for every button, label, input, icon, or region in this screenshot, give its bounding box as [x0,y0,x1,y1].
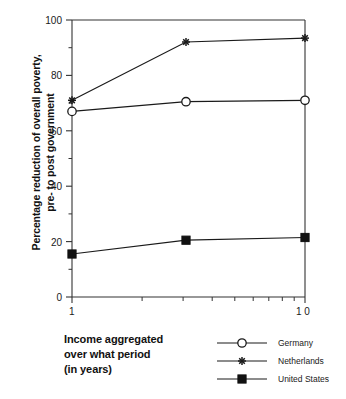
y-tick-label-100: 100 [45,15,62,26]
legend-key-united-states [216,372,268,386]
star-marker [216,354,268,368]
x-axis-title-line-1: Income aggregated [64,332,163,347]
filled-square-marker [216,372,268,386]
x-tick-label-10: 1 0 [296,306,310,317]
filled-square-marker [68,250,76,258]
y-axis-tick-labels: 0 20 40 60 80 100 [45,15,62,303]
legend-key-netherlands [216,354,268,368]
open-circle-marker [68,107,76,115]
star-marker [301,34,309,42]
filled-square-marker [182,236,190,244]
y-tick-label-80: 80 [51,70,63,81]
star-marker [182,38,190,46]
legend-label-united-states: United States [278,374,329,384]
x-axis-title: Income aggregated over what period (in y… [64,332,163,377]
legend-key-germany [216,336,268,350]
x-axis-tick-labels: 1 1 0 [69,306,310,317]
y-tick-label-0: 0 [56,292,62,303]
y-tick-label-60: 60 [51,126,63,137]
x-tick-label-1: 1 [69,306,75,317]
legend-label-netherlands: Netherlands [278,356,324,366]
legend-item-united-states: United States [216,370,329,388]
legend-item-germany: Germany [216,334,329,352]
x-axis-minor-ticks [142,297,294,301]
chart-figure: Percentage reduction of overall poverty,… [0,0,346,399]
legend-item-netherlands: Netherlands [216,352,329,370]
filled-square-marker [301,233,309,241]
x-axis-title-line-2: over what period [64,347,163,362]
axis-frame [72,20,305,297]
series-netherlands [68,34,309,104]
open-circle-marker [182,98,190,106]
series-germany [68,96,309,116]
legend-label-germany: Germany [278,338,313,348]
y-tick-label-20: 20 [51,237,63,248]
open-circle-marker [216,336,268,350]
x-axis-title-line-3: (in years) [64,362,163,377]
open-circle-marker [301,96,309,104]
series-united-states [68,233,309,258]
legend: Germany Netherlands [216,334,329,388]
y-tick-label-40: 40 [51,181,63,192]
x-axis-major-ticks [72,297,305,303]
